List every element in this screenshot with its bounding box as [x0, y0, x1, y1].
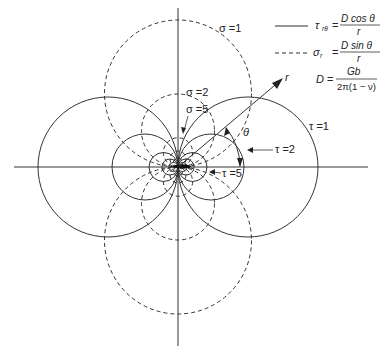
svg-text:=: = — [332, 19, 338, 31]
svg-text:τ: τ — [315, 19, 320, 31]
sigma2-label: σ =2 — [186, 86, 208, 98]
legend-solid: τ rθ = D cos θ r — [275, 13, 380, 37]
svg-text:D sin θ: D sin θ — [341, 40, 373, 51]
svg-text:=: = — [327, 73, 333, 85]
legend: τ rθ = D cos θ r σ r = D sin θ r D = Gb — [275, 13, 380, 92]
theta-arc: θ — [224, 126, 249, 167]
svg-text:D cos θ: D cos θ — [341, 13, 375, 24]
legend-constant: D = Gb 2π(1 − ν) — [316, 66, 377, 92]
legend-dashed: σ r = D sin θ r — [275, 40, 380, 64]
dislocation-core — [173, 164, 191, 168]
sigma5-label: σ =5 — [186, 103, 208, 115]
theta-arrowhead-down-icon — [237, 158, 243, 167]
stress-field-diagram: r θ σ =1 σ =2 σ =5 τ =1 τ =2 τ =5 — [0, 0, 386, 358]
svg-text:rθ: rθ — [322, 25, 328, 32]
r-label: r — [285, 71, 290, 83]
tau2-leader — [247, 147, 273, 153]
svg-text:2π(1 − ν): 2π(1 − ν) — [337, 81, 376, 92]
svg-text:σ: σ — [313, 46, 320, 58]
tau5-label: τ =5 — [222, 167, 242, 179]
r-arrowhead-icon — [272, 78, 283, 89]
svg-text:r: r — [357, 53, 361, 64]
tau1-label: τ =1 — [309, 120, 329, 132]
svg-text:Gb: Gb — [347, 66, 361, 77]
sigma1-label: σ =1 — [219, 22, 241, 34]
svg-text:=: = — [332, 46, 338, 58]
tau5-leader — [209, 169, 221, 175]
theta-label: θ — [243, 126, 249, 138]
svg-text:r: r — [320, 52, 323, 59]
svg-text:D: D — [316, 73, 324, 85]
tau2-label: τ =2 — [275, 143, 295, 155]
sigma5-leader — [181, 116, 188, 134]
svg-text:r: r — [357, 26, 361, 37]
